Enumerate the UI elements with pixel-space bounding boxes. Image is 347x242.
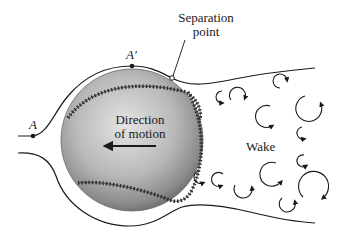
vortex-icon [256, 105, 272, 127]
label-point-a-prime: A′ [126, 48, 137, 61]
vortex-icon [296, 96, 322, 121]
vortex-icon [297, 155, 306, 167]
vortex-icon [279, 198, 295, 212]
vortex-icon [297, 127, 304, 139]
label-direction-line1: Direction [100, 113, 180, 126]
label-point-a: A [29, 118, 37, 131]
vortex-icon [212, 172, 223, 186]
point-a-prime-dot [130, 64, 135, 69]
vortex-icon [216, 91, 222, 103]
label-separation-line2: point [160, 25, 252, 38]
separation-point-dot [170, 76, 175, 81]
label-separation-line1: Separation [160, 11, 252, 24]
separation-leader [173, 40, 185, 76]
vortex-icon [260, 162, 281, 186]
vortex-icon [273, 74, 287, 88]
label-direction-line2: of motion [100, 127, 180, 140]
vortex-icon [234, 185, 252, 198]
vortex-icon [299, 171, 329, 198]
point-a-dot [31, 134, 36, 139]
label-wake: Wake [246, 140, 275, 153]
vortex-icon [229, 87, 245, 100]
